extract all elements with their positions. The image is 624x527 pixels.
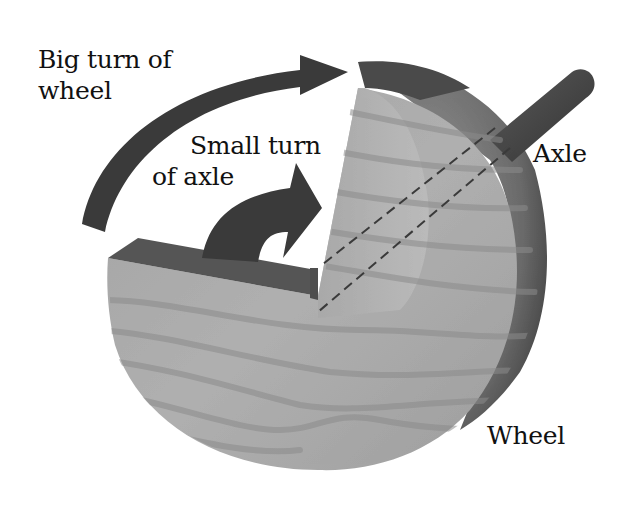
big-turn-label-line1: Big turn of: [38, 44, 171, 75]
small-turn-label-line2: of axle: [152, 161, 321, 192]
small-turn-label-line1: Small turn: [152, 130, 321, 161]
wheel-label: Wheel: [487, 420, 565, 451]
big-turn-label-line2: wheel: [38, 75, 171, 106]
axle-label: Axle: [533, 138, 587, 169]
big-turn-label: Big turn of wheel: [38, 44, 171, 106]
small-turn-label: Small turn of axle: [152, 130, 321, 192]
wheel-and-axle-diagram: Big turn of wheel Small turn of axle Axl…: [0, 0, 624, 527]
